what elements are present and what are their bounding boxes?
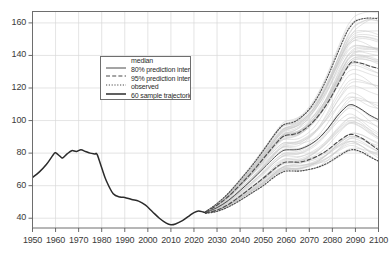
y-tick-label: 120: [2, 82, 26, 92]
x-tick-label: 2020: [183, 235, 205, 245]
x-tick-label: 1990: [114, 235, 136, 245]
x-tick-label: 2060: [275, 235, 297, 245]
chart-canvas: [0, 0, 389, 254]
legend-item: 60 sample trajectories: [101, 93, 190, 100]
legend-label: 60 sample trajectories: [131, 92, 191, 99]
legend-label: median: [131, 57, 153, 64]
fan-chart: 406080100120140160 195019601970198019902…: [0, 0, 389, 254]
legend-label: observed: [131, 83, 159, 90]
x-tick-label: 2040: [229, 235, 251, 245]
x-tick-label: 2050: [252, 235, 274, 245]
x-tick-label: 2070: [298, 235, 320, 245]
legend-item: 80% prediction interval: [101, 66, 190, 74]
x-tick-label: 2090: [344, 235, 366, 245]
x-tick-label: 2010: [160, 235, 182, 245]
y-tick-label: 160: [2, 17, 26, 27]
y-tick-label: 40: [2, 212, 26, 222]
x-tick-label: 1970: [68, 235, 90, 245]
y-tick-label: 80: [2, 147, 26, 157]
chart-legend: median80% prediction interval95% predict…: [100, 56, 191, 100]
legend-item: 95% prediction interval: [101, 75, 190, 83]
legend-item: observed: [101, 84, 190, 92]
y-tick-label: 60: [2, 180, 26, 190]
series-observed: [33, 150, 206, 225]
legend-swatch-dotted: [105, 75, 127, 83]
x-tick-label: 1960: [45, 235, 67, 245]
axis-ticks: [29, 23, 379, 232]
x-tick-label: 1980: [91, 235, 113, 245]
legend-item: median: [101, 58, 190, 66]
legend-label: 80% prediction interval: [131, 66, 191, 73]
x-tick-label: 2000: [137, 235, 159, 245]
x-tick-label: 1950: [22, 235, 44, 245]
x-tick-label: 2100: [368, 235, 389, 245]
x-tick-label: 2030: [206, 235, 228, 245]
legend-label: 95% prediction interval: [131, 75, 191, 82]
sample-trajectories: [206, 12, 379, 213]
legend-swatch-dashed: [105, 66, 127, 74]
y-tick-label: 100: [2, 115, 26, 125]
x-tick-label: 2080: [321, 235, 343, 245]
legend-swatch-solid-light: [105, 93, 127, 100]
y-tick-label: 140: [2, 49, 26, 59]
legend-swatch-solid-thick: [105, 84, 127, 92]
legend-swatch-solid: [105, 58, 127, 66]
series-lines: [33, 18, 379, 225]
